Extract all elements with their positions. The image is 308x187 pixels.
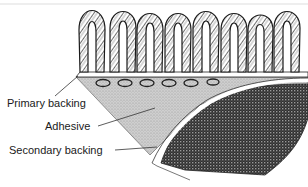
label-adhesive: Adhesive xyxy=(45,121,90,132)
carpet-diagram xyxy=(0,0,308,187)
primary-backing-layer xyxy=(76,72,308,77)
label-primary-backing: Primary backing xyxy=(7,98,86,109)
label-secondary-backing: Secondary backing xyxy=(9,145,103,156)
leader-primary xyxy=(55,76,78,96)
pile-loops xyxy=(79,11,300,73)
